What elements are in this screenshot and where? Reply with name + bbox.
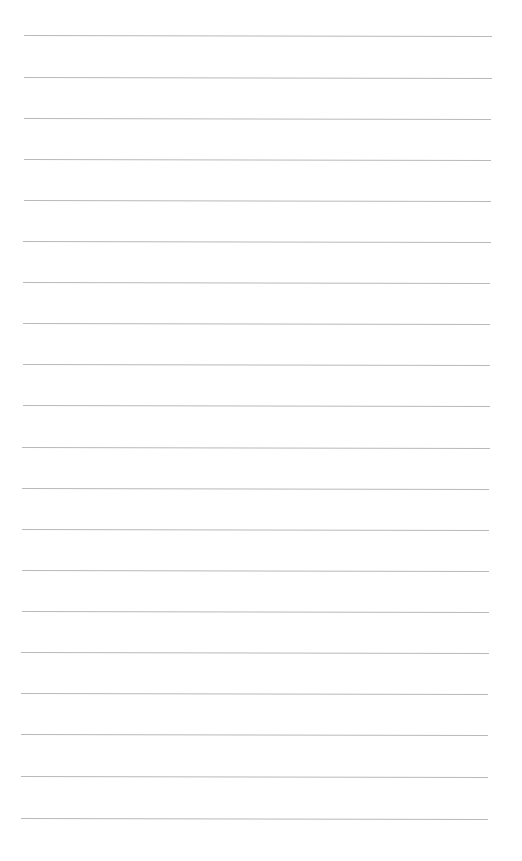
ruled-paper-page — [0, 0, 522, 861]
ruled-line — [21, 818, 488, 820]
ruled-line — [22, 611, 489, 613]
ruled-line — [21, 776, 488, 778]
ruled-line — [23, 241, 491, 243]
ruled-line — [22, 570, 489, 572]
ruled-line — [23, 364, 490, 366]
ruled-line — [22, 447, 490, 449]
ruled-line — [23, 282, 490, 284]
ruled-line — [21, 652, 489, 654]
ruled-line — [21, 734, 488, 736]
ruled-line — [21, 693, 488, 695]
ruled-line — [24, 118, 491, 120]
ruled-line — [23, 323, 490, 325]
ruled-line — [24, 200, 491, 202]
ruled-line — [24, 77, 492, 79]
ruled-line — [24, 35, 492, 37]
ruled-line — [22, 529, 489, 531]
ruled-line — [23, 405, 490, 407]
ruled-line — [22, 488, 489, 490]
ruled-line — [24, 159, 491, 161]
